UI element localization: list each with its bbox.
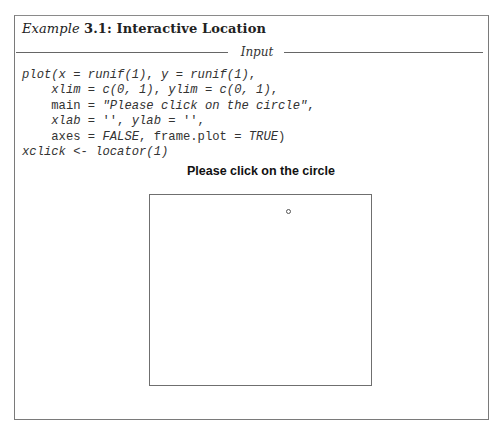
code-token: axes bbox=[51, 130, 80, 144]
plot-region[interactable] bbox=[149, 194, 372, 386]
code-token: = '', bbox=[81, 114, 132, 128]
code-line: xlim = c(0, 1), ylim = c(0, 1), bbox=[22, 83, 315, 98]
code-token: main bbox=[51, 99, 80, 113]
code-token: , bbox=[146, 68, 161, 82]
code-token: ) bbox=[278, 130, 285, 144]
code-token: xlab bbox=[51, 114, 80, 128]
code-token: = bbox=[168, 68, 190, 82]
code-token: = bbox=[198, 83, 220, 97]
code-token: c(0, 1) bbox=[220, 83, 271, 97]
code-token: xlim bbox=[51, 83, 80, 97]
plot-title: Please click on the circle bbox=[150, 163, 372, 179]
r-code-listing: plot(x = runif(1), y = runif(1), xlim = … bbox=[22, 68, 315, 160]
example-heading: Example 3.1: Interactive Location bbox=[22, 20, 266, 38]
code-token: = bbox=[81, 83, 103, 97]
code-token: = '', bbox=[161, 114, 205, 128]
code-token: plot(x bbox=[22, 68, 66, 82]
target-circle-point[interactable] bbox=[286, 209, 291, 214]
code-token: runif(1) bbox=[190, 68, 249, 82]
code-token: ylab bbox=[132, 114, 161, 128]
code-token: = bbox=[81, 130, 103, 144]
input-section-label: Input bbox=[232, 44, 282, 60]
code-token: TRUE bbox=[249, 130, 278, 144]
code-token: xclick bbox=[22, 145, 66, 159]
code-line: xclick <- locator(1) bbox=[22, 145, 315, 160]
divider-rule-right bbox=[284, 52, 483, 53]
divider-rule-left bbox=[16, 52, 228, 53]
code-token: c(0, 1) bbox=[102, 83, 153, 97]
code-token: , bbox=[154, 83, 169, 97]
code-token: <- bbox=[66, 145, 95, 159]
code-token: , bbox=[249, 68, 256, 82]
code-line: main = "Please click on the circle", bbox=[22, 99, 315, 114]
example-number-title: 3.1: Interactive Location bbox=[84, 21, 266, 36]
code-token: "Please click on the circle" bbox=[102, 99, 307, 113]
code-token: = bbox=[66, 68, 88, 82]
code-token: , frame.plot = bbox=[139, 130, 249, 144]
code-token: , bbox=[307, 99, 314, 113]
code-token: locator(1) bbox=[95, 145, 168, 159]
code-line: plot(x = runif(1), y = runif(1), bbox=[22, 68, 315, 83]
code-token: , bbox=[271, 83, 278, 97]
example-label: Example bbox=[22, 21, 80, 36]
input-section-divider: Input bbox=[16, 44, 484, 60]
code-token: runif(1) bbox=[88, 68, 147, 82]
code-line: xlab = '', ylab = '', bbox=[22, 114, 315, 129]
code-token: = bbox=[81, 99, 103, 113]
code-line: axes = FALSE, frame.plot = TRUE) bbox=[22, 130, 315, 145]
code-token: ylim bbox=[168, 83, 197, 97]
code-token: FALSE bbox=[102, 130, 139, 144]
